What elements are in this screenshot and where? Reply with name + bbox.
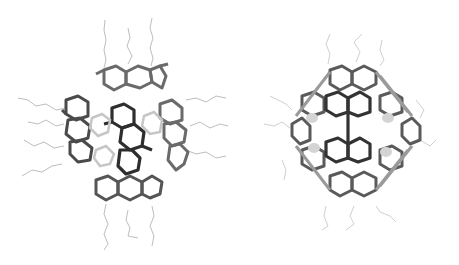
cage-cavity-shading xyxy=(306,113,394,157)
molecular-structure-figure xyxy=(0,0,459,265)
cage-left-graphic xyxy=(0,0,230,265)
ring-cluster-right xyxy=(160,100,188,170)
cage-right-graphic xyxy=(230,0,459,265)
ring-cluster-back xyxy=(90,112,162,166)
ring-cluster-top-left xyxy=(96,64,168,90)
cage-structure-left xyxy=(0,0,230,265)
cage-structure-right xyxy=(230,0,459,265)
fused-rings-outer xyxy=(292,66,420,196)
alkyl-chains-left xyxy=(18,18,228,250)
ring-cluster-bottom-left xyxy=(96,176,162,200)
fused-rings-center xyxy=(326,92,370,162)
fused-rings-side xyxy=(296,72,412,190)
ring-cluster-left xyxy=(62,96,92,162)
alkyl-chains-right xyxy=(264,34,436,230)
